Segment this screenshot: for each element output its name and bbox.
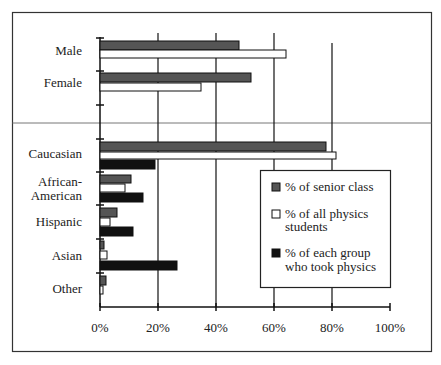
bar-hispanic-took [100, 227, 133, 236]
bar-other-senior [100, 276, 106, 285]
bar-african-american-took [100, 193, 143, 202]
x-tick-80: 80% [320, 320, 344, 335]
label-african-american-2: American [31, 188, 83, 203]
bar-african-american-senior [100, 175, 131, 183]
label-asian: Asian [52, 248, 83, 263]
bar-caucasian-physics [100, 152, 336, 159]
label-caucasian: Caucasian [29, 146, 83, 161]
x-tick-20: 20% [146, 320, 170, 335]
legend-label-senior: % of senior class [285, 179, 373, 194]
bar-asian-senior [100, 241, 104, 249]
bar-caucasian-senior [100, 142, 326, 151]
x-tick-100: 100% [375, 320, 406, 335]
bar-male-senior [100, 41, 239, 50]
bar-male-physics [100, 50, 286, 58]
bar-female-physics [100, 83, 201, 91]
legend-label-took-2: who took physics [285, 259, 376, 274]
legend-swatch-senior [272, 183, 280, 191]
label-female: Female [44, 75, 82, 90]
bar-hispanic-physics [100, 218, 110, 226]
legend-label-took-1: % of each group [285, 245, 371, 260]
bar-asian-took [100, 261, 177, 270]
legend-label-physics-2: students [285, 219, 328, 234]
bar-caucasian-took [100, 160, 155, 169]
bar-african-american-physics [100, 184, 125, 192]
legend: % of senior class % of all physics stude… [261, 171, 391, 288]
label-other: Other [52, 281, 82, 296]
bar-asian-physics [100, 251, 107, 259]
label-african-american-1: African- [38, 174, 82, 189]
x-tick-0: 0% [91, 320, 109, 335]
x-tick-40: 40% [204, 320, 228, 335]
legend-swatch-took [272, 249, 280, 257]
bar-female-senior [100, 73, 251, 82]
legend-swatch-physics [272, 210, 280, 218]
bar-chart: 0% 20% 40% 60% 80% 100% Male Female Cauc… [0, 0, 441, 365]
label-male: Male [55, 43, 82, 58]
x-tick-60: 60% [262, 320, 286, 335]
bar-other-physics [100, 286, 103, 294]
bar-hispanic-senior [100, 208, 117, 217]
label-hispanic: Hispanic [36, 214, 82, 229]
